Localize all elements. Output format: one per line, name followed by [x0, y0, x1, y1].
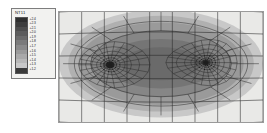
mesh-node [113, 66, 114, 67]
mesh-node [100, 63, 101, 64]
mesh-node [213, 66, 214, 67]
mesh-node [211, 59, 212, 60]
legend-swatch [16, 68, 27, 73]
mesh-contour-plot [58, 11, 264, 123]
mesh-node [112, 69, 113, 70]
mesh-node [100, 66, 101, 67]
mesh-node [199, 57, 200, 58]
mesh-node [108, 57, 109, 58]
mesh-node [117, 60, 118, 61]
mesh-node [209, 62, 210, 63]
mesh-node [202, 63, 203, 64]
mesh-node [112, 60, 113, 61]
mesh-node [109, 67, 110, 68]
mesh-node [211, 65, 212, 66]
mesh-node [109, 61, 110, 62]
mesh-node [212, 62, 213, 63]
mesh-node [115, 61, 116, 62]
mesh-node [209, 69, 210, 70]
mesh-node [106, 65, 107, 66]
mesh-node [107, 66, 108, 67]
mesh-node [113, 63, 114, 64]
mesh-node [196, 60, 197, 61]
mesh-node [209, 64, 210, 65]
mesh-node [109, 69, 110, 70]
mesh-node [201, 59, 202, 60]
mesh-node [108, 71, 109, 72]
mesh-node [113, 58, 114, 59]
mesh-node [103, 59, 104, 60]
mesh-node [107, 62, 108, 63]
legend-label-column: +2.4+2.3+2.1+2.0+1.9+1.8+1.7+1.6+1.5+1.4… [30, 17, 36, 74]
mesh-node [199, 61, 200, 62]
mesh-node [103, 65, 104, 66]
mesh-node [119, 64, 120, 65]
mesh-node [207, 65, 208, 66]
mesh-node [109, 60, 110, 61]
legend-value-label: +1.2 [30, 67, 36, 72]
mesh-node [204, 55, 205, 56]
mesh-node [209, 55, 210, 56]
mesh-node [117, 68, 118, 69]
mesh-node [203, 64, 204, 65]
legend-title: NT11 [15, 10, 25, 15]
mesh-node [213, 58, 214, 59]
contour-mesh-svg [59, 12, 263, 122]
contour-legend: NT11 +2.4+2.3+2.1+2.0+1.9+1.8+1.7+1.6+1.… [11, 8, 56, 79]
mesh-node [103, 69, 104, 70]
legend-color-bar [15, 17, 28, 74]
mesh-node [115, 67, 116, 68]
mesh-node [203, 60, 204, 61]
mesh-node [199, 67, 200, 68]
mesh-node [113, 71, 114, 72]
mesh-node [202, 61, 203, 62]
mesh-node [111, 67, 112, 68]
mesh-node [199, 63, 200, 64]
mesh-node [103, 63, 104, 64]
mesh-node [113, 64, 114, 65]
mesh-node [204, 58, 205, 59]
mesh-node [111, 61, 112, 62]
mesh-node [196, 64, 197, 65]
mesh-node [105, 61, 106, 62]
mesh-node [116, 64, 117, 65]
mesh-node [215, 62, 216, 63]
mesh-node [204, 69, 205, 70]
mesh-node [105, 67, 106, 68]
mesh-node [204, 67, 205, 68]
mesh-node [209, 60, 210, 61]
mesh-node [201, 65, 202, 66]
mesh-node [207, 59, 208, 60]
mesh-node [205, 65, 206, 66]
mesh-node [205, 59, 206, 60]
mesh-node [208, 67, 209, 68]
legend-body: +2.4+2.3+2.1+2.0+1.9+1.8+1.7+1.6+1.5+1.4… [15, 17, 36, 74]
fea-contour-figure: NT11 +2.4+2.3+2.1+2.0+1.9+1.8+1.7+1.6+1.… [0, 0, 267, 133]
mesh-node [208, 58, 209, 59]
mesh-node [106, 64, 107, 65]
